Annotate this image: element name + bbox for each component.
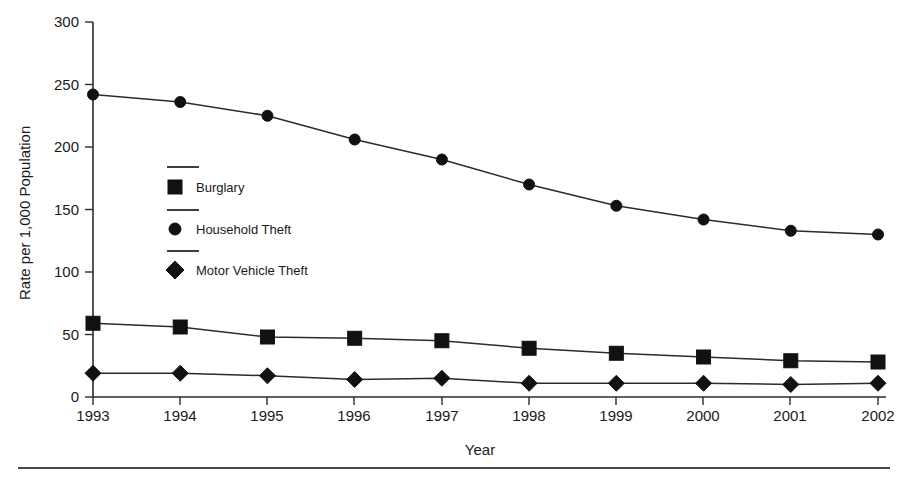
square-marker xyxy=(168,180,182,194)
circle-marker xyxy=(169,223,181,235)
y-tick-label: 50 xyxy=(62,326,79,343)
circle-marker xyxy=(698,214,709,225)
legend-label-household-theft: Household Theft xyxy=(196,222,292,237)
square-marker xyxy=(609,346,623,360)
square-marker xyxy=(173,320,187,334)
circle-marker xyxy=(349,134,360,145)
x-tick-label: 1993 xyxy=(76,407,109,424)
square-marker xyxy=(348,331,362,345)
square-marker xyxy=(871,355,885,369)
y-axis-title: Rate per 1,000 Population xyxy=(16,126,33,300)
y-tick-label: 150 xyxy=(54,201,79,218)
y-tick-label: 100 xyxy=(54,263,79,280)
square-marker xyxy=(697,350,711,364)
x-tick-label: 1997 xyxy=(425,407,458,424)
y-tick-label: 300 xyxy=(54,13,79,30)
legend-label-motor-vehicle-theft: Motor Vehicle Theft xyxy=(196,263,308,278)
x-tick-label: 1999 xyxy=(599,407,632,424)
x-tick-label: 2002 xyxy=(861,407,894,424)
x-tick-label: 2001 xyxy=(773,407,806,424)
square-marker xyxy=(435,334,449,348)
square-marker xyxy=(522,341,536,355)
legend-label-burglary: Burglary xyxy=(196,180,245,195)
x-tick-label: 1998 xyxy=(512,407,545,424)
square-marker xyxy=(784,354,798,368)
circle-marker xyxy=(436,154,447,165)
circle-marker xyxy=(262,110,273,121)
line-chart-svg: 300 250 200 150 100 50 0 Rate per 1,000 … xyxy=(0,0,908,481)
circle-marker xyxy=(873,229,884,240)
y-tick-label: 200 xyxy=(54,138,79,155)
square-marker xyxy=(86,316,100,330)
y-tick-label: 0 xyxy=(71,388,79,405)
circle-marker xyxy=(611,200,622,211)
x-tick-label: 2000 xyxy=(686,407,719,424)
chart-figure: 300 250 200 150 100 50 0 Rate per 1,000 … xyxy=(0,0,908,481)
x-axis-title: Year xyxy=(465,441,495,458)
y-tick-label: 250 xyxy=(54,76,79,93)
circle-marker xyxy=(524,179,535,190)
circle-marker xyxy=(785,225,796,236)
circle-marker xyxy=(88,89,99,100)
square-marker xyxy=(260,330,274,344)
x-tick-label: 1995 xyxy=(250,407,283,424)
circle-marker xyxy=(175,97,186,108)
x-tick-label: 1996 xyxy=(337,407,370,424)
x-tick-label: 1994 xyxy=(163,407,196,424)
